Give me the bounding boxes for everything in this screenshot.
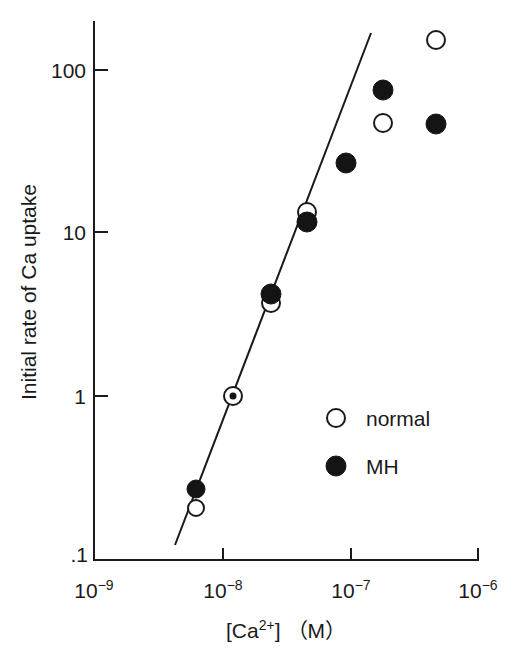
axes-group <box>94 22 478 560</box>
x-axis-title-bracket-open: [Ca <box>226 619 259 642</box>
data-point-normal <box>374 114 392 132</box>
legend-label-normal: normal <box>366 407 430 430</box>
x-tick-label-1e-7: 10−7 <box>331 577 371 602</box>
data-point-mh <box>261 284 281 304</box>
data-point-mh <box>187 480 205 498</box>
legend-marker-mh <box>326 456 346 476</box>
data-point-mh <box>297 212 317 232</box>
x-axis-title-charge: 2+ <box>259 617 275 633</box>
data-point-mh <box>426 114 446 134</box>
x-tick-label-1e-8: 10−8 <box>203 577 243 602</box>
y-tick-label-10: 10 <box>63 221 86 244</box>
y-tick-label-100: 100 <box>51 59 86 82</box>
y-tick-label-point1: .1 <box>70 543 88 566</box>
y-axis-tick-labels: 100 10 1 .1 <box>51 59 88 566</box>
y-tick-label-1: 1 <box>74 385 86 408</box>
chart-figure: 100 10 1 .1 10−9 10−8 10−7 10−6 <box>0 0 518 655</box>
legend-marker-normal <box>327 409 345 427</box>
series-normal-markers <box>188 31 445 516</box>
data-point-normal <box>427 31 445 49</box>
series-mh-markers <box>187 80 446 498</box>
scatter-plot: 100 10 1 .1 10−9 10−8 10−7 10−6 <box>0 0 518 655</box>
data-point-mh <box>373 80 393 100</box>
data-point-normal <box>188 500 204 516</box>
chart-legend: normal MH <box>326 407 430 478</box>
legend-label-mh: MH <box>366 455 399 478</box>
data-point-mh <box>336 153 356 173</box>
x-axis-title-bracket-close: ] <box>275 619 281 642</box>
data-point-mh <box>230 393 237 400</box>
x-axis-title-unit: （M） <box>287 619 347 642</box>
x-axis-tick-labels: 10−9 10−8 10−7 10−6 <box>74 577 498 602</box>
x-axis-title: [Ca2+]（M） <box>226 617 346 642</box>
x-tick-label-1e-9: 10−9 <box>74 577 114 602</box>
y-axis-title: Initial rate of Ca uptake <box>17 184 40 400</box>
x-axis-ticks <box>94 548 478 560</box>
x-tick-label-1e-6: 10−6 <box>458 577 498 602</box>
y-axis-ticks <box>94 70 108 396</box>
